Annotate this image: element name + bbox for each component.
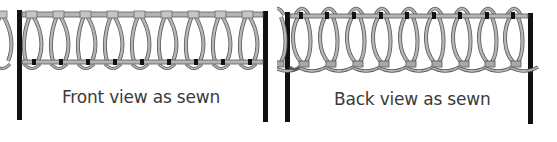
left-post xyxy=(17,10,22,120)
right-post xyxy=(263,11,268,122)
back-view-caption: Back view as sewn xyxy=(334,89,491,109)
back-view-diagram xyxy=(277,0,557,142)
front-view-panel: Front view as sewn xyxy=(0,0,280,142)
front-view-diagram xyxy=(0,0,280,142)
back-view-panel: Back view as sewn xyxy=(277,0,557,142)
front-view-caption: Front view as sewn xyxy=(62,87,220,107)
